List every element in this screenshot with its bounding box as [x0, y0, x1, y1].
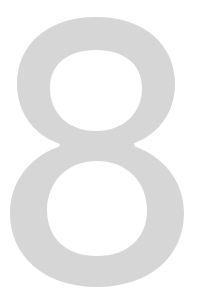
top-loop — [17, 17, 175, 150]
bottom-loop — [10, 140, 184, 287]
digit-eight-glyph — [0, 0, 203, 304]
digit-eight-icon — [0, 0, 203, 304]
